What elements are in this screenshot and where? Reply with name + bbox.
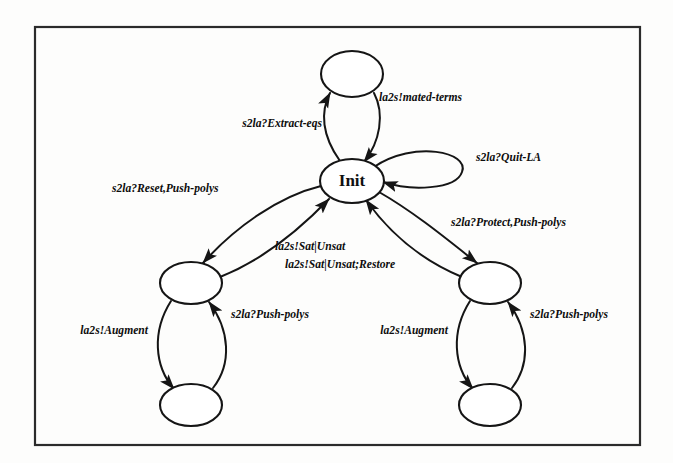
- edge-label-extract-eqs: s2la?Extract-eqs: [241, 117, 322, 130]
- edge-label-augment-left: la2s!Augment: [80, 324, 148, 337]
- node-left-mid[interactable]: [160, 262, 222, 304]
- diagram-canvas: Init s2la?Extract-eqs la2s!mated-terms s…: [0, 0, 673, 463]
- edge-left-mid-to-left-bottom: [158, 301, 174, 389]
- edge-label-quit-la: s2la?Quit-LA: [475, 151, 541, 164]
- node-top[interactable]: [321, 51, 383, 97]
- edge-label-push-polys-right: s2la?Push-polys: [529, 308, 608, 321]
- node-right-bottom[interactable]: [459, 384, 521, 426]
- node-right-mid[interactable]: [459, 262, 521, 304]
- edge-right-bottom-to-right-mid: [508, 302, 525, 388]
- state-diagram-figure: Init s2la?Extract-eqs la2s!mated-terms s…: [0, 0, 673, 463]
- node-init-label: Init: [339, 171, 366, 190]
- edge-init-self-loop: [374, 151, 463, 187]
- node-left-bottom[interactable]: [160, 384, 222, 426]
- edge-left-bottom-to-left-mid: [209, 302, 226, 388]
- edge-right-mid-to-right-bottom: [457, 301, 473, 389]
- edge-label-sat-unsat-restore: la2s!Sat|Unsat;Restore: [285, 258, 395, 271]
- edge-init-to-top: [324, 93, 340, 161]
- edge-label-mated-terms: la2s!mated-terms: [379, 91, 463, 104]
- edge-label-augment-right: la2s!Augment: [380, 324, 448, 337]
- edge-label-protect-push-polys: s2la?Protect,Push-polys: [450, 216, 566, 229]
- edge-label-push-polys-left: s2la?Push-polys: [230, 308, 309, 321]
- edge-label-sat-unsat: la2s!Sat|Unsat: [275, 240, 346, 253]
- edge-label-reset-push-polys: s2la?Reset,Push-polys: [111, 182, 219, 195]
- edge-top-to-init: [364, 93, 380, 162]
